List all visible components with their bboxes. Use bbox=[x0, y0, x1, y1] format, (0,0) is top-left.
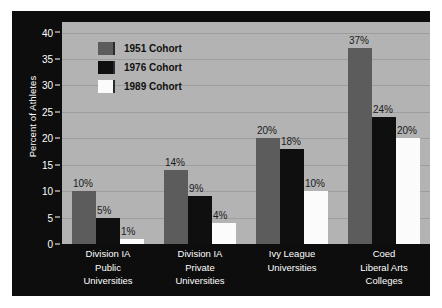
x-category-label-2: Division IAPrivateUniversities bbox=[154, 247, 246, 288]
tick-mark-icon bbox=[55, 111, 60, 112]
x-category-line: Liberal Arts bbox=[338, 261, 430, 275]
x-category-line: Ivy League bbox=[246, 247, 338, 261]
tick-mark-icon bbox=[55, 191, 60, 192]
x-category-line: Private bbox=[154, 261, 246, 275]
bar-value-label: 24% bbox=[373, 104, 393, 115]
x-category-label-3: Ivy LeagueUniversities bbox=[246, 247, 338, 274]
x-category-line: Coed bbox=[338, 247, 430, 261]
legend-item-1[interactable]: 1951 Cohort bbox=[98, 40, 238, 57]
y-axis-tick-10: 10 bbox=[42, 186, 60, 197]
x-category-line: Division IA bbox=[154, 247, 246, 261]
tick-mark-icon bbox=[55, 58, 60, 59]
tick-mark-icon bbox=[55, 32, 60, 33]
legend-label: 1989 Cohort bbox=[124, 81, 182, 92]
chart-figure: Percent of Athletes 0510152025303540 195… bbox=[12, 11, 430, 296]
legend-swatch-icon bbox=[98, 61, 115, 74]
y-axis-tick-20: 20 bbox=[42, 133, 60, 144]
y-axis-tick-15: 15 bbox=[42, 159, 60, 170]
bar bbox=[256, 138, 280, 244]
x-category-label-4: CoedLiberal ArtsColleges bbox=[338, 247, 430, 288]
x-category-line: Universities bbox=[154, 274, 246, 288]
bar bbox=[212, 223, 236, 244]
bar bbox=[72, 191, 96, 244]
y-axis-tick-25: 25 bbox=[42, 106, 60, 117]
legend-swatch-icon bbox=[98, 42, 115, 55]
chart-legend: 1951 Cohort1976 Cohort1989 Cohort bbox=[98, 40, 238, 97]
bar-value-label: 4% bbox=[213, 210, 227, 221]
tick-mark-icon bbox=[55, 164, 60, 165]
legend-swatch-icon bbox=[98, 80, 115, 93]
x-category-line: Universities bbox=[246, 261, 338, 275]
legend-label: 1976 Cohort bbox=[124, 62, 182, 73]
y-axis-tick-35: 35 bbox=[42, 54, 60, 65]
bar bbox=[280, 149, 304, 244]
bar bbox=[304, 191, 328, 244]
bar bbox=[396, 138, 420, 244]
x-axis-category-labels: Division IAPublicUniversitiesDivision IA… bbox=[62, 247, 430, 295]
bar-value-label: 10% bbox=[305, 178, 325, 189]
x-category-line: Universities bbox=[62, 274, 154, 288]
bar-value-label: 10% bbox=[73, 178, 93, 189]
plot-area: 1951 Cohort1976 Cohort1989 Cohort 10%5%1… bbox=[62, 22, 430, 244]
bar-value-label: 5% bbox=[97, 205, 111, 216]
legend-item-3[interactable]: 1989 Cohort bbox=[98, 78, 238, 95]
bar-value-label: 14% bbox=[165, 157, 185, 168]
y-axis-tick-30: 30 bbox=[42, 80, 60, 91]
x-category-line: Division IA bbox=[62, 247, 154, 261]
bar-value-label: 9% bbox=[189, 183, 203, 194]
bar-value-label: 18% bbox=[281, 136, 301, 147]
tick-mark-icon bbox=[55, 85, 60, 86]
y-axis-tick-0: 0 bbox=[47, 239, 60, 250]
y-axis-tick-40: 40 bbox=[42, 27, 60, 38]
bar bbox=[372, 117, 396, 244]
bar-value-label: 37% bbox=[349, 35, 369, 46]
bar bbox=[348, 48, 372, 244]
bar bbox=[120, 239, 144, 244]
bar-value-label: 1% bbox=[121, 226, 135, 237]
x-category-line: Colleges bbox=[338, 274, 430, 288]
x-category-label-1: Division IAPublicUniversities bbox=[62, 247, 154, 288]
gridline-40 bbox=[62, 33, 430, 34]
bar bbox=[188, 196, 212, 244]
bar-value-label: 20% bbox=[397, 125, 417, 136]
y-axis-tick-labels: 0510152025303540 bbox=[34, 33, 60, 244]
tick-mark-icon bbox=[55, 138, 60, 139]
x-category-line: Public bbox=[62, 261, 154, 275]
y-axis-tick-5: 5 bbox=[47, 212, 60, 223]
tick-mark-icon bbox=[55, 217, 60, 218]
legend-label: 1951 Cohort bbox=[124, 43, 182, 54]
legend-item-2[interactable]: 1976 Cohort bbox=[98, 59, 238, 76]
bar bbox=[96, 218, 120, 244]
bar bbox=[164, 170, 188, 244]
tick-mark-icon bbox=[55, 243, 60, 244]
bar-value-label: 20% bbox=[257, 125, 277, 136]
